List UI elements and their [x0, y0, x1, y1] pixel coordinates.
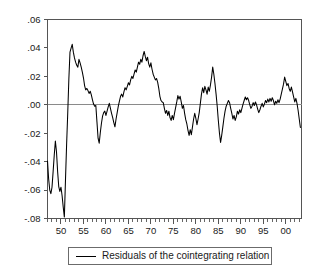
chart-legend: Residuals of the cointegrating relation	[68, 247, 272, 265]
y-tick-label: .06	[27, 14, 40, 25]
x-tick-label: 70	[146, 225, 157, 236]
chart-plot-area: .06.04.02.00-.02-.04-.06-.08 50556065707…	[0, 0, 314, 273]
legend-line-swatch	[76, 256, 96, 257]
x-axis-tick-labels: 5055606570758085909500	[56, 225, 291, 236]
x-tick-label: 50	[56, 225, 67, 236]
plot-frame	[48, 20, 302, 219]
x-tick-label: 60	[101, 225, 112, 236]
x-tick-label: 00	[280, 225, 291, 236]
y-tick-label: -.08	[24, 213, 40, 224]
axis-tick-marks	[44, 20, 300, 224]
legend-label: Residuals of the cointegrating relation	[102, 251, 269, 261]
x-tick-label: 75	[168, 225, 179, 236]
residuals-chart-figure: .06.04.02.00-.02-.04-.06-.08 50556065707…	[0, 0, 314, 273]
y-tick-label: .00	[27, 99, 40, 110]
y-tick-label: .04	[27, 42, 40, 53]
x-tick-label: 90	[236, 225, 247, 236]
x-tick-label: 95	[258, 225, 269, 236]
x-tick-label: 55	[78, 225, 89, 236]
y-axis-tick-labels: .06.04.02.00-.02-.04-.06-.08	[24, 14, 40, 224]
x-tick-label: 80	[191, 225, 202, 236]
plot-frame-rect	[48, 20, 302, 219]
y-tick-label: -.04	[24, 156, 40, 167]
y-tick-label: .02	[27, 71, 40, 82]
x-tick-label: 85	[213, 225, 224, 236]
data-series-group	[48, 44, 301, 217]
residuals-series-line	[48, 44, 301, 217]
x-tick-label: 65	[123, 225, 134, 236]
y-tick-label: -.02	[24, 128, 40, 139]
y-tick-label: -.06	[24, 184, 40, 195]
